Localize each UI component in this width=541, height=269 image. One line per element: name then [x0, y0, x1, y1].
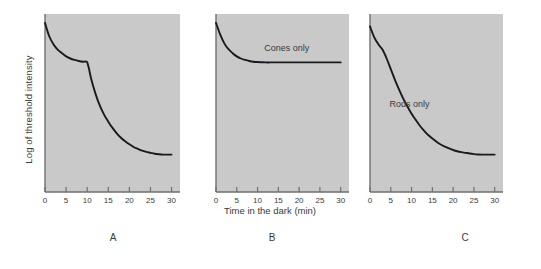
x-tick-label: 10	[253, 196, 262, 205]
x-tick-label: 25	[146, 196, 155, 205]
x-tick-label: 30	[336, 196, 345, 205]
x-tick-label: 20	[449, 196, 458, 205]
panel-c: 051015202530 Rods only	[358, 0, 538, 269]
x-axis-tick-labels: 051015202530	[43, 196, 177, 205]
x-tick-label: 5	[64, 196, 69, 205]
x-tick-label: 0	[368, 196, 373, 205]
x-tick-label: 30	[167, 196, 176, 205]
x-tick-label: 10	[83, 196, 92, 205]
x-axis-title: Time in the dark (min)	[180, 205, 360, 216]
panel-letter-b: B	[182, 232, 362, 243]
panel-b-plot: 051015202530 Cones only	[180, 0, 360, 269]
x-tick-label: 5	[389, 196, 394, 205]
x-tick-label: 15	[104, 196, 113, 205]
curve-label: Cones only	[264, 43, 310, 53]
dark-adaptation-figure: 051015202530 Log of threshold intensity …	[0, 0, 541, 269]
x-tick-label: 20	[125, 196, 134, 205]
x-axis-tick-labels: 051015202530	[214, 196, 346, 205]
curve-annotations: Cones only	[264, 43, 310, 53]
panel-b: 051015202530 Cones only	[180, 0, 360, 269]
panel-c-plot: 051015202530 Rods only	[358, 0, 538, 269]
x-tick-label: 15	[428, 196, 437, 205]
x-tick-label: 30	[490, 196, 499, 205]
x-axis-tick-labels: 051015202530	[368, 196, 500, 205]
panel-a: 051015202530 Log of threshold intensity	[0, 0, 180, 269]
x-tick-label: 5	[235, 196, 240, 205]
panel-letter-c: C	[375, 232, 541, 243]
plot-area-background	[216, 14, 349, 192]
y-axis-title: Log of threshold intensity	[23, 30, 34, 190]
x-tick-label: 20	[295, 196, 304, 205]
x-tick-label: 15	[274, 196, 283, 205]
curve-annotations: Rods only	[389, 99, 430, 109]
x-tick-label: 0	[43, 196, 48, 205]
x-tick-label: 10	[407, 196, 416, 205]
x-tick-label: 0	[214, 196, 219, 205]
x-tick-label: 25	[469, 196, 478, 205]
panel-letter-a: A	[23, 232, 203, 243]
x-tick-label: 25	[315, 196, 324, 205]
curve-label: Rods only	[389, 99, 430, 109]
plot-area-background	[45, 14, 180, 192]
